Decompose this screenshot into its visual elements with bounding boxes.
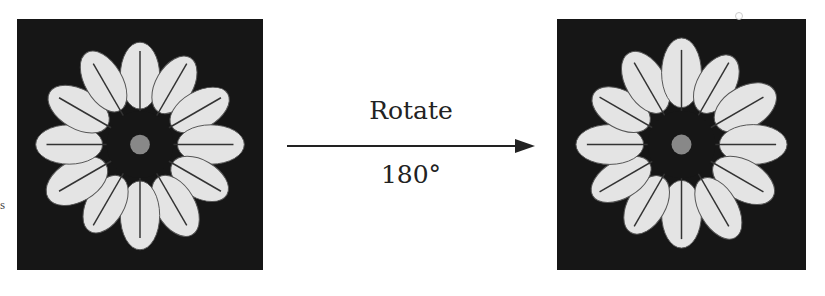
arrow-label-degrees: 180°: [286, 160, 536, 189]
right-arrow-icon: [287, 136, 537, 156]
rotated-plant-image: [557, 19, 806, 270]
rosette-rotated-icon: [557, 19, 806, 270]
arrow-label-rotate: Rotate: [286, 96, 536, 125]
corner-circle-mark: [735, 12, 743, 20]
original-plant-image: [17, 19, 263, 270]
side-text-fragment: s: [0, 197, 5, 213]
rosette-original-icon: [17, 19, 263, 270]
